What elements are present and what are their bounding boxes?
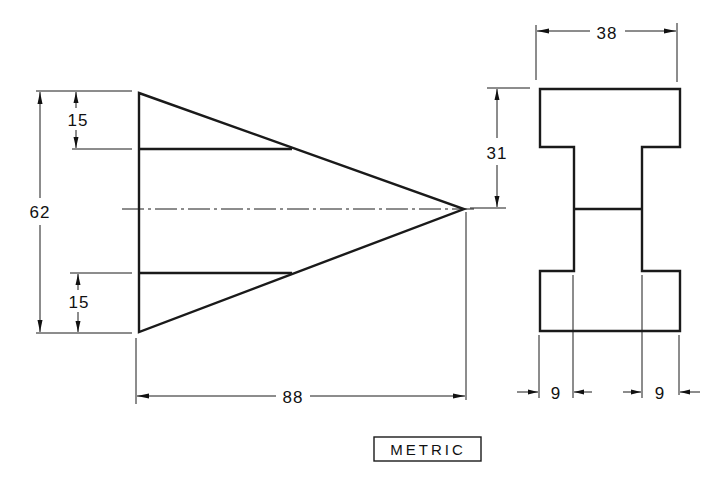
- dim-overall-width: 38: [597, 24, 618, 43]
- dim-right-overhang: 9: [655, 384, 665, 403]
- technical-drawing: 62 15 15 88 38: [0, 0, 717, 485]
- dim-top-step: 15: [68, 111, 89, 130]
- side-view-dimensions: 38 31 9 9: [470, 23, 700, 403]
- dim-bottom-step: 15: [69, 293, 90, 312]
- front-view: [122, 93, 478, 332]
- dim-overall-length: 88: [283, 388, 304, 407]
- units-note-label: METRIC: [390, 441, 466, 458]
- wedge-outline: [139, 93, 464, 332]
- units-note: METRIC: [374, 437, 481, 461]
- dim-overall-height: 62: [30, 203, 51, 222]
- dim-left-overhang: 9: [551, 384, 561, 403]
- dim-half-height: 31: [487, 144, 508, 163]
- side-view: [540, 89, 680, 331]
- front-view-dimensions: 62 15 15 88: [30, 91, 466, 407]
